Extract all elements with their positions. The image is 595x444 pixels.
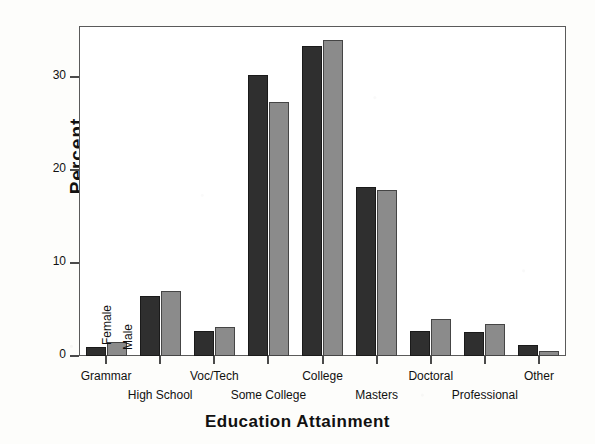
x-axis-tick-mark [213, 356, 215, 364]
x-axis-tick-mark [538, 356, 540, 364]
x-axis-tick-mark [430, 356, 432, 364]
y-axis-tick-label: 20 [53, 161, 66, 175]
tick-mark [70, 262, 79, 264]
y-axis-tick: 10 [0, 263, 79, 264]
y-axis-tick: 20 [0, 170, 79, 171]
bar [86, 347, 106, 356]
bar [377, 190, 397, 356]
x-axis-tick-mark [322, 356, 324, 364]
y-axis-tick-label: 10 [53, 254, 66, 268]
x-axis-tick-label: Grammar [81, 369, 132, 383]
tick-mark [70, 76, 79, 78]
x-axis-tick-mark [376, 356, 378, 364]
y-axis-tick: 0 [0, 356, 79, 357]
bar [356, 187, 376, 356]
x-axis-tick-mark [105, 356, 107, 364]
bar [302, 46, 322, 356]
tick-mark [70, 355, 79, 357]
tick-mark [70, 169, 79, 171]
bar [215, 327, 235, 356]
x-axis-tick-label: Other [524, 369, 554, 383]
x-axis-tick-label: Some College [231, 388, 306, 402]
bar [269, 102, 289, 356]
x-axis-tick-label: Doctoral [408, 369, 453, 383]
x-axis-tick-mark [484, 356, 486, 364]
bar [539, 351, 559, 356]
bar [161, 291, 181, 356]
legend-label-male: Male [121, 324, 135, 350]
x-axis-tick-mark [267, 356, 269, 364]
bar [248, 75, 268, 356]
bar [518, 345, 538, 356]
bar-chart: Percent 0102030 FemaleMale GrammarHigh S… [0, 0, 595, 444]
bar [485, 324, 505, 356]
bar [140, 296, 160, 356]
x-axis-tick-mark [159, 356, 161, 364]
bar [464, 332, 484, 356]
bar [431, 319, 451, 356]
x-axis-tick-label: Voc/Tech [190, 369, 239, 383]
legend-label-female: Female [100, 305, 114, 345]
x-axis-title: Education Attainment [0, 412, 595, 432]
x-axis-tick-label: High School [128, 388, 193, 402]
bar [194, 331, 214, 356]
x-axis-tick-label: Masters [355, 388, 398, 402]
bar [410, 331, 430, 356]
bar [323, 40, 343, 356]
x-axis-tick-label: College [302, 369, 343, 383]
x-axis-tick-label: Professional [452, 388, 518, 402]
y-axis-tick: 30 [0, 77, 79, 78]
y-axis-tick-label: 30 [53, 68, 66, 82]
y-axis-tick-label: 0 [59, 347, 66, 361]
